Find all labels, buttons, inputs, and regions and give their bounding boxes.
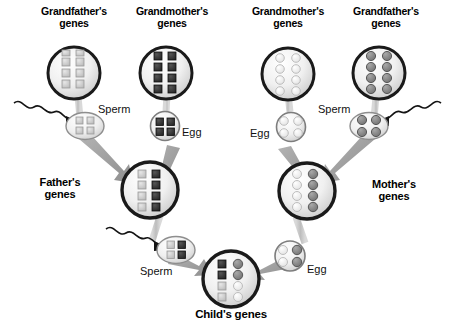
stalk-father [152, 216, 160, 241]
grandmother-right-cell [262, 48, 314, 100]
label-sperm-right: Sperm [318, 103, 350, 115]
mother-cell [279, 163, 335, 219]
genetics-inheritance-diagram: Grandfather's genes Grandmother's genes … [0, 0, 453, 332]
sperm-tail-left [14, 102, 70, 120]
label-father: Father's genes [14, 176, 106, 201]
egg-from-mother [275, 241, 305, 271]
grandmother-left-cell [140, 47, 192, 99]
label-grandfather-right: Grandfather's genes [322, 6, 450, 30]
stalk-group [76, 75, 378, 243]
sperm-from-grandfather-left [66, 113, 104, 140]
label-sperm-father: Sperm [140, 265, 172, 277]
egg-from-grandmother-left [151, 112, 180, 141]
stalk-mother [296, 217, 305, 243]
label-sperm-left: Sperm [98, 103, 130, 115]
child-cell [203, 251, 259, 307]
label-egg-left: Egg [182, 126, 202, 138]
sperm-from-grandfather-right [350, 113, 388, 140]
label-egg-right: Egg [250, 127, 270, 139]
sperm-tail-right [385, 102, 441, 120]
father-cell [122, 162, 178, 218]
diagram-canvas [0, 0, 453, 332]
grandfather-left-cell [48, 47, 100, 99]
sperm-tail-root-group [66, 116, 389, 251]
sperm-from-father [157, 237, 195, 264]
label-child: Child's genes [169, 308, 293, 321]
egg-from-grandmother-right [277, 113, 306, 142]
label-mother: Mother's genes [348, 178, 440, 203]
label-grandmother-left: Grandmother's genes [108, 6, 236, 30]
label-egg-mother: Egg [307, 263, 327, 275]
grandfather-right-cell [353, 47, 405, 99]
